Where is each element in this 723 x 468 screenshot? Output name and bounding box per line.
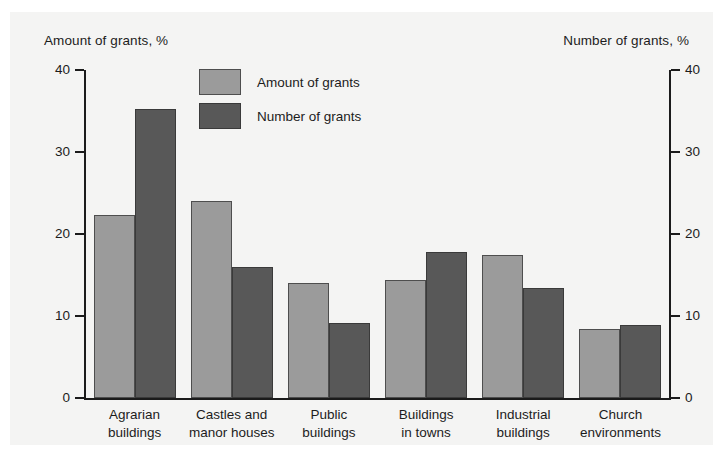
right-axis-tick-30 xyxy=(671,151,680,153)
bar-number-4 xyxy=(426,252,467,398)
right-axis-ticklabel-40: 40 xyxy=(685,63,700,77)
left-axis-tick-40 xyxy=(75,69,84,71)
x-axis-category-label-6: Church environments xyxy=(572,406,669,442)
left-axis-tick-20 xyxy=(75,233,84,235)
bar-amount-3 xyxy=(288,283,329,398)
plot-area: 010203040 010203040 Agrarian buildingsCa… xyxy=(86,70,669,398)
bar-amount-6 xyxy=(579,329,620,398)
legend-swatch-amount-of-grants xyxy=(199,69,241,95)
bar-number-1 xyxy=(135,109,176,398)
bar-amount-5 xyxy=(482,255,523,398)
left-axis-title: Amount of grants, % xyxy=(44,33,168,48)
right-axis-ticklabel-10: 10 xyxy=(685,309,700,323)
right-axis-tick-0 xyxy=(671,397,680,399)
left-axis-ticklabel-20: 20 xyxy=(55,227,70,241)
legend-item-amount-of-grants: Amount of grants xyxy=(199,68,361,96)
left-axis-spine xyxy=(84,70,86,399)
x-axis-category-label-1: Agrarian buildings xyxy=(86,406,183,442)
left-axis-tick-10 xyxy=(75,315,84,317)
legend-label-number-of-grants: Number of grants xyxy=(257,109,361,124)
right-axis-ticklabel-20: 20 xyxy=(685,227,700,241)
left-axis-tick-30 xyxy=(75,151,84,153)
x-axis-category-label-5: Industrial buildings xyxy=(475,406,572,442)
left-axis-tick-0 xyxy=(75,397,84,399)
right-axis-tick-10 xyxy=(671,315,680,317)
right-axis-title: Number of grants, % xyxy=(563,33,689,48)
legend-label-amount-of-grants: Amount of grants xyxy=(257,75,360,90)
x-axis-category-label-2: Castles and manor houses xyxy=(183,406,280,442)
chart-figure: Amount of grants, % Number of grants, % … xyxy=(0,0,723,468)
bar-amount-1 xyxy=(94,215,135,398)
bar-number-3 xyxy=(329,323,370,398)
right-axis-tick-40 xyxy=(671,69,680,71)
right-axis-ticklabel-30: 30 xyxy=(685,145,700,159)
x-axis-baseline xyxy=(84,398,671,400)
x-axis-category-label-3: Public buildings xyxy=(280,406,377,442)
bar-number-6 xyxy=(620,325,661,398)
bar-number-5 xyxy=(523,288,564,398)
left-axis-ticklabel-10: 10 xyxy=(55,309,70,323)
bar-amount-4 xyxy=(385,280,426,398)
legend-swatch-number-of-grants xyxy=(199,103,241,129)
chart-legend: Amount of grants Number of grants xyxy=(199,68,361,136)
right-axis-ticklabel-0: 0 xyxy=(685,391,693,405)
x-axis-category-label-4: Buildings in towns xyxy=(378,406,475,442)
left-axis-ticklabel-40: 40 xyxy=(55,63,70,77)
right-axis-tick-20 xyxy=(671,233,680,235)
left-axis-ticklabel-30: 30 xyxy=(55,145,70,159)
bar-amount-2 xyxy=(191,201,232,398)
left-axis-ticklabel-0: 0 xyxy=(62,391,70,405)
legend-item-number-of-grants: Number of grants xyxy=(199,102,361,130)
bar-number-2 xyxy=(232,267,273,398)
